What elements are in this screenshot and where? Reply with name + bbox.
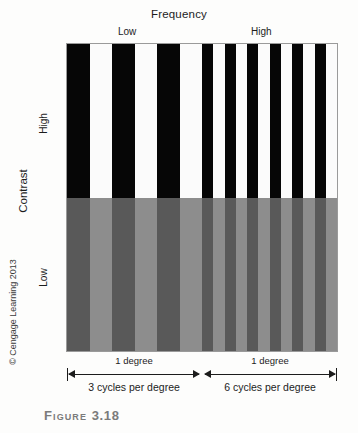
frequency-axis-title: Frequency bbox=[0, 8, 358, 20]
grating-bar bbox=[281, 44, 292, 198]
grating-bar bbox=[135, 44, 158, 198]
figure-caption-number: 3.18 bbox=[92, 408, 120, 423]
right-degree-label: 1 degree bbox=[202, 355, 338, 366]
copyright-notice: © Cengage Learning 2013 bbox=[8, 242, 18, 382]
contrast-high-label: High bbox=[38, 104, 49, 144]
left-arrowhead-end-icon bbox=[193, 370, 200, 378]
figure-caption-label: Figure bbox=[44, 408, 87, 423]
grating-bar bbox=[112, 198, 135, 351]
grating-bar bbox=[157, 198, 180, 351]
right-arrowhead-end-icon bbox=[329, 370, 336, 378]
grating-bar bbox=[202, 44, 213, 198]
right-arrowhead-start-icon bbox=[204, 370, 211, 378]
right-arrow-line bbox=[205, 374, 335, 375]
grating-bar bbox=[90, 44, 113, 198]
grating-bar bbox=[213, 198, 224, 351]
low-contrast-row bbox=[67, 198, 337, 351]
grating-bar bbox=[213, 44, 224, 198]
grating-bar bbox=[67, 198, 90, 351]
grating-bar bbox=[236, 44, 247, 198]
cycles-captions: 3 cycles per degree 6 cycles per degree bbox=[66, 381, 338, 397]
frequency-low-label: Low bbox=[118, 26, 136, 37]
high-contrast-row bbox=[67, 44, 337, 198]
left-arrow-line bbox=[69, 374, 199, 375]
grating-bar bbox=[247, 198, 258, 351]
grating-bar bbox=[90, 198, 113, 351]
grating-bar bbox=[270, 44, 281, 198]
grating-bar bbox=[326, 44, 337, 198]
high-contrast-low-frequency-block bbox=[67, 44, 202, 198]
grating-bar bbox=[315, 198, 326, 351]
grating-bar bbox=[180, 198, 203, 351]
grating-bar bbox=[315, 44, 326, 198]
grating-bar bbox=[180, 44, 203, 198]
low-contrast-high-frequency-block bbox=[202, 198, 337, 351]
grating-bar bbox=[292, 44, 303, 198]
left-cycles-caption: 3 cycles per degree bbox=[66, 381, 202, 393]
grating-bar bbox=[67, 44, 90, 198]
right-cycles-caption: 6 cycles per degree bbox=[202, 381, 338, 393]
high-contrast-high-frequency-block bbox=[202, 44, 337, 198]
grating-bar bbox=[258, 198, 269, 351]
right-degree-marker: 1 degree bbox=[202, 355, 338, 381]
contrast-low-label: Low bbox=[38, 258, 49, 298]
grating-bar bbox=[281, 198, 292, 351]
grating-bar bbox=[236, 198, 247, 351]
grating-bar bbox=[225, 44, 236, 198]
grating-bar bbox=[247, 44, 258, 198]
left-degree-marker: 1 degree bbox=[66, 355, 202, 381]
grating-bar bbox=[202, 198, 213, 351]
degree-markers: 1 degree 1 degree bbox=[66, 355, 338, 381]
grating-bar bbox=[135, 198, 158, 351]
grating-bar bbox=[112, 44, 135, 198]
grating-panel bbox=[66, 43, 338, 352]
grating-bar bbox=[270, 198, 281, 351]
grating-bar bbox=[225, 198, 236, 351]
grating-bar bbox=[303, 198, 314, 351]
grating-bar bbox=[303, 44, 314, 198]
low-contrast-low-frequency-block bbox=[67, 198, 202, 351]
grating-bar bbox=[157, 44, 180, 198]
frequency-high-label: High bbox=[251, 26, 272, 37]
left-degree-label: 1 degree bbox=[66, 355, 202, 366]
figure-caption: Figure 3.18 bbox=[44, 408, 119, 423]
grating-bar bbox=[292, 198, 303, 351]
left-arrowhead-start-icon bbox=[68, 370, 75, 378]
contrast-axis-title: Contrast bbox=[17, 151, 29, 231]
right-marker-endcap-end bbox=[336, 368, 337, 381]
grating-bar bbox=[258, 44, 269, 198]
grating-bar bbox=[326, 198, 337, 351]
